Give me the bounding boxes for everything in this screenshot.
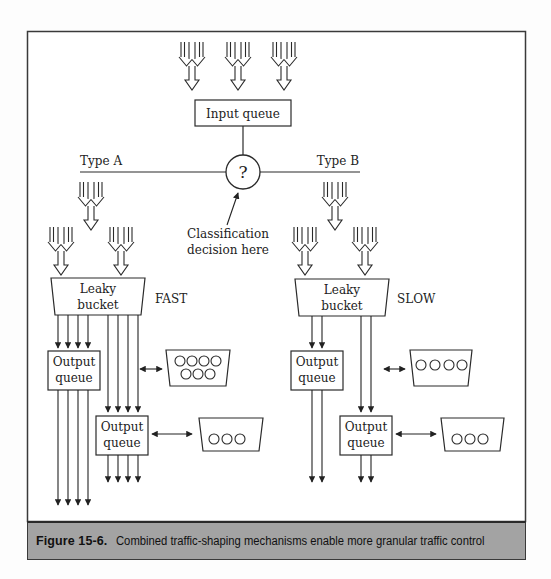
traffic-shaping-diagram: Input queue ? Type A Type B Classificati… <box>0 0 551 579</box>
slow-leaky-bucket: Leaky bucket <box>295 279 389 316</box>
figure-number: Figure 15-6. <box>36 534 108 548</box>
type-a-output-queue-1: Output queue <box>48 351 100 390</box>
input-queue-label: Input queue <box>206 107 280 121</box>
type-b-output-queue-2: Output queue <box>340 416 392 455</box>
type-a-buffer-7-slots <box>166 350 230 386</box>
svg-text:Output: Output <box>53 355 96 369</box>
svg-text:bucket: bucket <box>321 299 363 313</box>
type-a-buffer-3-slots <box>199 418 263 451</box>
type-a-label: Type A <box>80 154 122 168</box>
svg-text:bucket: bucket <box>77 298 119 312</box>
type-b-label: Type B <box>317 154 359 168</box>
svg-text:Leaky: Leaky <box>80 282 116 296</box>
figure-caption: Combined traffic-shaping mechanisms enab… <box>116 534 485 548</box>
question-mark-icon: ? <box>238 162 247 182</box>
svg-text:Output: Output <box>101 420 144 434</box>
classifier-node: ? <box>226 155 260 189</box>
svg-text:queue: queue <box>298 371 335 385</box>
svg-text:Output: Output <box>296 355 339 369</box>
classification-note-line2: decision here <box>187 243 269 257</box>
fast-label: FAST <box>155 292 187 306</box>
slow-label: SLOW <box>397 292 436 306</box>
type-b-buffer-3-slots <box>441 418 504 451</box>
type-b-buffer-4-slots <box>410 350 472 386</box>
type-b-output-queue-1: Output queue <box>291 351 343 390</box>
svg-text:queue: queue <box>103 436 140 450</box>
fast-leaky-bucket: Leaky bucket <box>51 278 145 315</box>
type-a-output-queue-2: Output queue <box>96 416 148 455</box>
input-queue-box: Input queue <box>195 100 291 126</box>
svg-text:queue: queue <box>347 436 384 450</box>
svg-text:Leaky: Leaky <box>324 283 360 297</box>
svg-text:queue: queue <box>55 371 92 385</box>
classification-note-line1: Classification <box>187 227 269 241</box>
svg-text:Output: Output <box>345 420 388 434</box>
figure-caption-bar: Figure 15-6. Combined traffic-shaping me… <box>27 521 526 560</box>
